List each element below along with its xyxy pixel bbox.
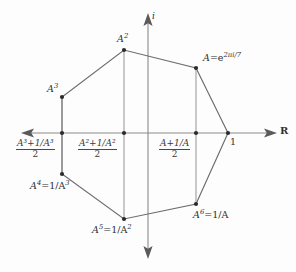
real-axis-label: R bbox=[280, 126, 288, 136]
midpoint-label-A3-denominator: 2 bbox=[16, 150, 55, 160]
vertex-label-A4-eq-sup: 3 bbox=[65, 179, 69, 187]
vertex-label-A-main: A bbox=[203, 52, 210, 63]
vertex-dot-A4 bbox=[60, 172, 64, 176]
vertex-label-A5: A5=1/A2 bbox=[92, 224, 132, 235]
vertex-dot-A3 bbox=[60, 95, 64, 99]
vertex-label-A-eq: =e bbox=[210, 52, 224, 63]
vertex-label-A5-main: A bbox=[92, 224, 99, 235]
heptagon-diagram bbox=[0, 0, 296, 272]
vertex-label-A5-eq-sup: 2 bbox=[127, 223, 131, 231]
midpoint-dot-A1 bbox=[194, 131, 198, 135]
vertex-label-A6: A6=1/A bbox=[193, 209, 228, 220]
vertex-label-A2: A2 bbox=[117, 33, 128, 44]
vertex-label-one: 1 bbox=[230, 137, 236, 147]
vertex-label-A3-main: A bbox=[47, 83, 54, 94]
imaginary-axis-label: i bbox=[152, 12, 155, 21]
vertex-dot-A6 bbox=[194, 202, 198, 206]
vertex-label-A6-eq: =1/A bbox=[204, 209, 228, 220]
vertex-label-A3-sup: 3 bbox=[54, 82, 58, 90]
vertex-label-A2-sup: 2 bbox=[124, 32, 128, 40]
vertex-dot-A2 bbox=[122, 48, 126, 52]
midpoint-label-A2-numerator: A²+1/A² bbox=[78, 139, 117, 150]
heptagon-outline bbox=[62, 50, 228, 219]
midpoint-label-A1-denominator: 2 bbox=[159, 150, 190, 160]
vertex-dot-A bbox=[194, 66, 198, 70]
vertex-label-A2-main: A bbox=[117, 33, 124, 44]
vertex-label-A4-eq: =1/A bbox=[41, 180, 65, 191]
vertex-label-A4: A4=1/A3 bbox=[30, 180, 70, 191]
midpoint-label-A1-numerator: A+1/A bbox=[159, 139, 190, 150]
vertex-dot-A5 bbox=[122, 217, 126, 221]
vertex-label-A5-eq: =1/A bbox=[103, 224, 127, 235]
vertex-label-A: A=e2πi/7 bbox=[203, 52, 241, 63]
figure-canvas: i R A=e2πi/7 A2 A3 A4=1/A3 A5=1/A2 A6=1/… bbox=[0, 0, 296, 272]
midpoint-dot-A2 bbox=[122, 131, 126, 135]
vertex-label-A-exponent: 2πi/7 bbox=[223, 51, 241, 59]
midpoint-label-A3: A³+1/A³ 2 bbox=[16, 139, 55, 160]
midpoint-label-A2-denominator: 2 bbox=[78, 150, 117, 160]
midpoint-dot-A3 bbox=[60, 131, 64, 135]
vertex-label-A6-main: A bbox=[193, 209, 200, 220]
vertex-dot-one bbox=[226, 131, 230, 135]
midpoint-label-A1: A+1/A 2 bbox=[159, 139, 190, 160]
vertex-label-A4-main: A bbox=[30, 180, 37, 191]
midpoint-label-A3-numerator: A³+1/A³ bbox=[16, 139, 55, 150]
vertex-label-A3: A3 bbox=[47, 83, 58, 94]
midpoint-label-A2: A²+1/A² 2 bbox=[78, 139, 117, 160]
